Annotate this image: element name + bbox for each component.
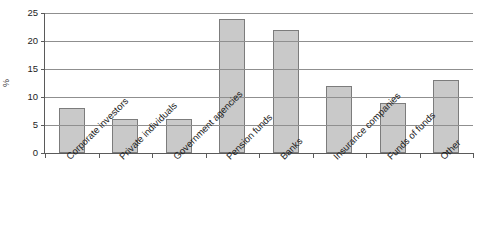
y-axis-tick-label: 5 [16, 120, 38, 130]
y-axis-tick-label: 10 [16, 92, 38, 102]
bar [219, 19, 245, 153]
gridline [45, 41, 473, 42]
gridline [45, 69, 473, 70]
y-axis-tick [41, 97, 45, 98]
x-axis-tick-labels: Corporate investorsPrivate individualsGo… [44, 154, 482, 244]
bar-chart: % 2520151050 Corporate investorsPrivate … [0, 0, 482, 244]
y-axis-tick [41, 125, 45, 126]
y-axis-tick-label: 20 [16, 36, 38, 46]
y-axis-tick-label: 25 [16, 8, 38, 18]
gridline [45, 97, 473, 98]
y-axis-tick [41, 69, 45, 70]
gridline [45, 13, 473, 14]
y-axis-tick-label: 15 [16, 64, 38, 74]
y-axis-tick [41, 13, 45, 14]
y-axis-tick [41, 41, 45, 42]
y-axis-tick-label: 0 [16, 148, 38, 158]
bar [273, 30, 299, 153]
chart-title-cropped [0, 0, 482, 5]
y-axis-tick-labels: 2520151050 [16, 0, 38, 244]
y-axis-title: % [1, 79, 11, 87]
